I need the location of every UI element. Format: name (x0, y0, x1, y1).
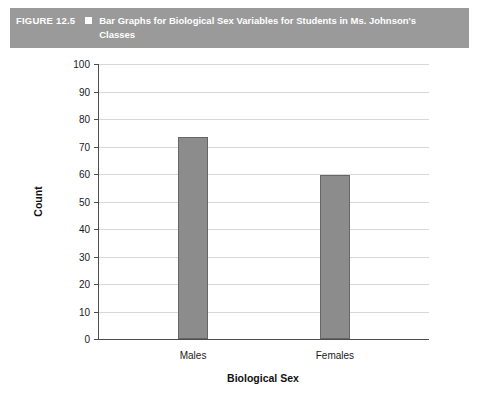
y-axis-tick-label: 40 (79, 224, 90, 235)
y-axis-tick-label: 20 (79, 279, 90, 290)
y-gridline (99, 92, 429, 93)
y-gridline (99, 312, 429, 313)
y-gridline (99, 284, 429, 285)
figure-header-band: FIGURE 12.5 Bar Graphs for Biological Se… (10, 8, 469, 48)
y-axis-tick-label: 50 (79, 196, 90, 207)
y-axis-tick (94, 257, 99, 258)
y-axis-tick (94, 174, 99, 175)
chart-container: Count 0102030405060708090100MalesFemales… (10, 52, 469, 385)
y-axis-tick (94, 312, 99, 313)
y-axis-tick-label: 80 (79, 114, 90, 125)
y-axis-tick (94, 92, 99, 93)
plot-area: 0102030405060708090100MalesFemales (98, 64, 429, 340)
y-axis-tick-label: 0 (84, 334, 90, 345)
y-axis-tick (94, 119, 99, 120)
y-axis-tick (94, 202, 99, 203)
figure-page: FIGURE 12.5 Bar Graphs for Biological Se… (0, 0, 489, 393)
y-gridline (99, 64, 429, 65)
y-axis-tick (94, 339, 99, 340)
y-axis-tick (94, 64, 99, 65)
y-axis-tick-label: 10 (79, 306, 90, 317)
y-axis-tick-label: 30 (79, 251, 90, 262)
y-axis-tick-label: 70 (79, 141, 90, 152)
y-axis-tick-label: 60 (79, 169, 90, 180)
y-axis-tick (94, 284, 99, 285)
y-axis-tick (94, 229, 99, 230)
y-axis-tick (94, 147, 99, 148)
bar (320, 175, 350, 339)
x-axis-category-label: Females (316, 350, 354, 361)
y-gridline (99, 257, 429, 258)
y-gridline (99, 174, 429, 175)
x-axis-title: Biological Sex (98, 372, 428, 384)
x-axis-category-label: Males (180, 350, 207, 361)
y-gridline (99, 229, 429, 230)
bar (178, 137, 208, 339)
y-axis-title: Count (32, 64, 46, 339)
y-gridline (99, 119, 429, 120)
y-gridline (99, 147, 429, 148)
y-axis-tick-label: 90 (79, 86, 90, 97)
figure-title: Bar Graphs for Biological Sex Variables … (99, 14, 419, 41)
y-gridline (99, 202, 429, 203)
square-bullet-icon (85, 17, 92, 24)
figure-number-label: FIGURE 12.5 (16, 14, 75, 27)
y-axis-tick-label: 100 (73, 59, 90, 70)
